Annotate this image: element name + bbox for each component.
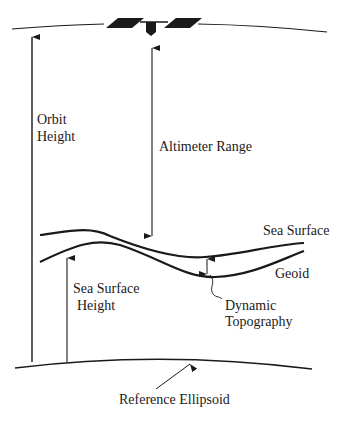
sea-surface-height-label-2: Height: [77, 297, 115, 314]
reference-ellipsoid-pointer: [156, 364, 190, 389]
dynamic-topography-label-2: Topography: [225, 313, 292, 330]
reference-ellipsoid-curve: [15, 359, 312, 369]
altimeter-range-label: Altimeter Range: [159, 138, 252, 155]
dynamic-topography-leader: [210, 275, 222, 299]
sea-surface-height-label-1: Sea Surface: [73, 280, 139, 297]
satellite-icon: [106, 18, 202, 36]
orbit-height-label-1: Orbit: [37, 111, 67, 128]
sea-surface-label: Sea Surface: [263, 222, 329, 239]
altimetry-diagram: [0, 0, 351, 422]
orbit-height-label-2: Height: [37, 128, 75, 145]
geoid-label: Geoid: [275, 265, 309, 282]
reference-ellipsoid-label: Reference Ellipsoid: [119, 391, 230, 408]
dynamic-topography-label-1: Dynamic: [225, 297, 276, 314]
